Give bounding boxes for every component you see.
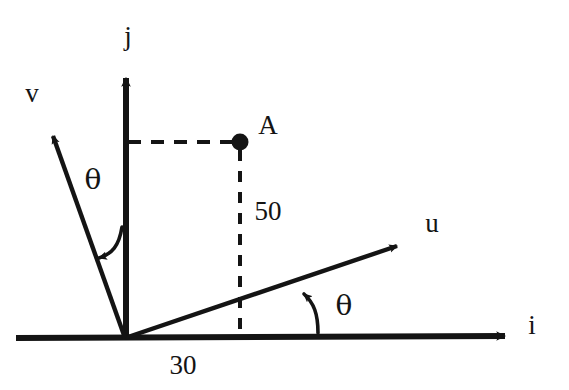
point-a-label: A [258,110,278,140]
angle-theta-right-label: θ [336,289,353,322]
angle-arc-left [99,227,122,258]
v-axis-label: v [25,78,39,108]
angle-arc-right [304,294,318,333]
angle-theta-left-label: θ [85,163,102,196]
j-axis-label: j [123,21,132,51]
i-axis-label: i [528,310,536,340]
vector-diagram-figure: j i u v A 50 30 θ θ [0,0,569,390]
u-axis-label: u [425,208,439,238]
vertical-component-label: 50 [255,196,282,226]
i-axis-line [16,336,505,338]
vector-diagram-canvas: j i u v A 50 30 θ θ [0,0,569,390]
horizontal-component-label: 30 [170,350,197,380]
u-axis-line [125,246,397,338]
point-a-marker [232,134,249,151]
